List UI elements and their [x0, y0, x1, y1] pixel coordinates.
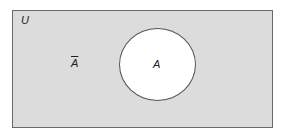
universe-label: U: [21, 14, 29, 26]
set-a-label: A: [153, 58, 160, 70]
complement-label: A: [71, 57, 78, 69]
